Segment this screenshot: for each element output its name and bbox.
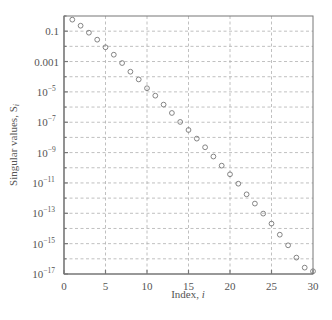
- data-point: [153, 93, 158, 98]
- data-point: [211, 154, 216, 159]
- x-tick-label: 5: [103, 280, 109, 292]
- data-point: [78, 23, 83, 28]
- singular-values-chart: 051015202530 0.10.00110−510−710−910−1110…: [0, 0, 332, 320]
- y-tick-label: 10−15: [32, 236, 55, 250]
- y-tick-label: 10−11: [32, 175, 55, 189]
- x-tick-label: 10: [142, 280, 154, 292]
- y-tick-labels: 0.10.00110−510−710−910−1110−1310−1510−17: [32, 25, 59, 280]
- y-tick-label: 10−5: [37, 84, 56, 98]
- x-tick-label: 20: [225, 280, 237, 292]
- y-tick-label: 10−7: [37, 114, 56, 128]
- data-point: [253, 201, 258, 206]
- data-point: [95, 37, 100, 42]
- data-point: [120, 61, 125, 66]
- data-point: [161, 102, 166, 107]
- x-tick-label: 0: [61, 280, 67, 292]
- x-axis-title: Index, i: [171, 288, 205, 300]
- grid-lines: [64, 16, 313, 274]
- data-point: [70, 17, 75, 22]
- data-point: [277, 232, 282, 237]
- data-point: [302, 265, 307, 270]
- data-point: [236, 181, 241, 186]
- y-tick-label: 10−9: [37, 145, 56, 159]
- x-tick-label: 30: [308, 280, 320, 292]
- data-point: [294, 255, 299, 260]
- data-point: [286, 243, 291, 248]
- y-tick-label: 0.1: [45, 25, 59, 37]
- data-point: [170, 111, 175, 116]
- data-point: [136, 77, 141, 82]
- data-point: [203, 145, 208, 150]
- data-point: [128, 69, 133, 74]
- data-point: [111, 52, 116, 57]
- y-tick-label: 0.001: [34, 56, 59, 68]
- y-tick-label: 10−13: [32, 205, 55, 219]
- y-tick-label: 10−17: [32, 266, 55, 280]
- data-series-singular-values: [70, 17, 316, 273]
- y-axis-title: Singular values, Si: [7, 104, 21, 186]
- x-tick-label: 25: [266, 280, 278, 292]
- data-point: [194, 136, 199, 141]
- data-point: [219, 163, 224, 168]
- data-point: [244, 192, 249, 197]
